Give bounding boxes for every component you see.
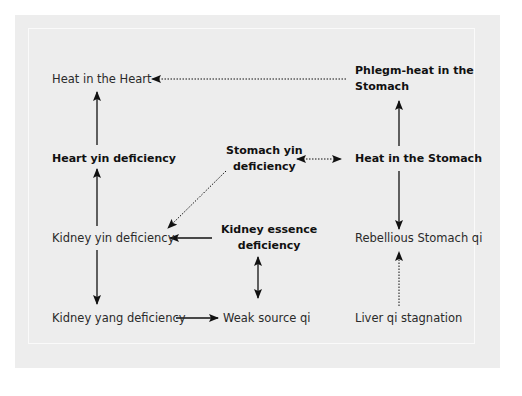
node-liver-qi-stagnation: Liver qi stagnation xyxy=(355,310,462,326)
node-rebellious-stomach-qi: Rebellious Stomach qi xyxy=(355,230,482,246)
node-line: Stomach yin xyxy=(226,143,303,159)
arrows-layer xyxy=(0,0,522,396)
node-kidney-essence-deficiency: Kidney essence deficiency xyxy=(221,222,317,254)
node-kidney-yin-deficiency: Kidney yin deficiency xyxy=(52,230,174,246)
arrow-stomachyin-to-kidneyyin xyxy=(168,171,226,228)
node-stomach-yin-deficiency: Stomach yin deficiency xyxy=(226,143,303,175)
node-heat-in-heart: Heat in the Heart xyxy=(52,71,152,87)
node-line: Stomach xyxy=(355,79,474,95)
node-weak-source-qi: Weak source qi xyxy=(223,310,310,326)
node-line: deficiency xyxy=(226,159,303,175)
node-kidney-yang-deficiency: Kidney yang deficiency xyxy=(52,310,186,326)
node-phlegm-heat-stomach: Phlegm-heat in the Stomach xyxy=(355,63,474,95)
node-heart-yin-deficiency: Heart yin deficiency xyxy=(52,151,176,167)
node-line: Kidney essence xyxy=(221,222,317,238)
node-line: Phlegm-heat in the xyxy=(355,63,474,79)
node-heat-in-stomach: Heat in the Stomach xyxy=(355,151,482,167)
node-line: deficiency xyxy=(221,238,317,254)
